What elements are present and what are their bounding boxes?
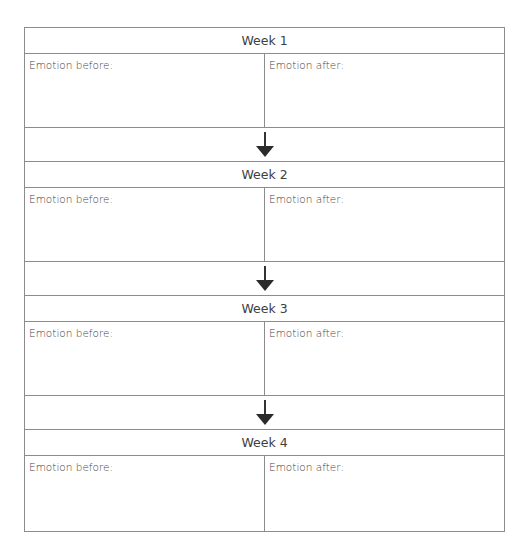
week-4-emotion-after-field[interactable]: Emotion after: xyxy=(265,456,504,531)
emotion-after-label: Emotion after: xyxy=(269,193,344,205)
week-3-emotion-row: Emotion before: Emotion after: xyxy=(25,322,504,396)
emotion-before-label: Emotion before: xyxy=(29,327,113,339)
emotion-before-label: Emotion before: xyxy=(29,59,113,71)
emotion-after-label: Emotion after: xyxy=(269,461,344,473)
emotion-before-label: Emotion before: xyxy=(29,193,113,205)
week-4-header: Week 4 xyxy=(25,430,504,456)
week-4-emotion-before-field[interactable]: Emotion before: xyxy=(25,456,265,531)
arrow-row-3 xyxy=(25,396,504,430)
arrow-row-1 xyxy=(25,128,504,162)
week-1-emotion-row: Emotion before: Emotion after: xyxy=(25,54,504,128)
emotion-after-label: Emotion after: xyxy=(269,59,344,71)
week-3-emotion-before-field[interactable]: Emotion before: xyxy=(25,322,265,395)
emotion-tracker-worksheet: Week 1 Emotion before: Emotion after: We… xyxy=(24,27,505,532)
week-1-header: Week 1 xyxy=(25,28,504,54)
down-arrow-head-icon xyxy=(256,414,274,425)
week-1-emotion-before-field[interactable]: Emotion before: xyxy=(25,54,265,127)
emotion-before-label: Emotion before: xyxy=(29,461,113,473)
week-3-emotion-after-field[interactable]: Emotion after: xyxy=(265,322,504,395)
week-3-header: Week 3 xyxy=(25,296,504,322)
week-4-emotion-row: Emotion before: Emotion after: xyxy=(25,456,504,531)
down-arrow-head-icon xyxy=(256,280,274,291)
week-2-emotion-after-field[interactable]: Emotion after: xyxy=(265,188,504,261)
emotion-after-label: Emotion after: xyxy=(269,327,344,339)
arrow-row-2 xyxy=(25,262,504,296)
week-2-emotion-row: Emotion before: Emotion after: xyxy=(25,188,504,262)
down-arrow-head-icon xyxy=(256,146,274,157)
week-2-emotion-before-field[interactable]: Emotion before: xyxy=(25,188,265,261)
week-2-header: Week 2 xyxy=(25,162,504,188)
week-1-emotion-after-field[interactable]: Emotion after: xyxy=(265,54,504,127)
